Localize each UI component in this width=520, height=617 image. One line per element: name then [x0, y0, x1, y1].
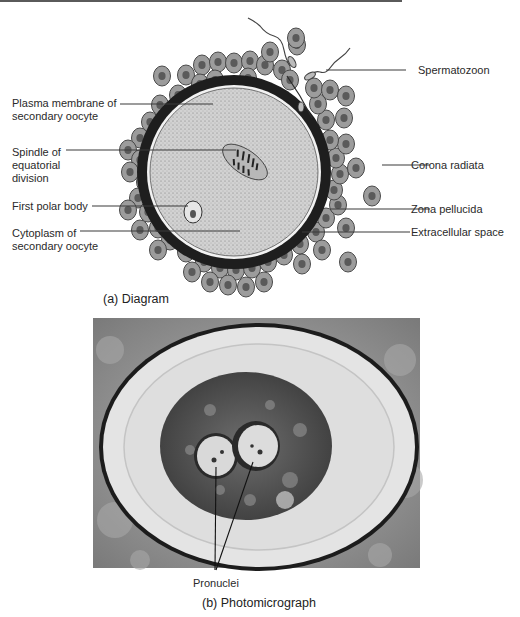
- label-plasma-membrane: Plasma membrane of secondary oocyte: [12, 97, 117, 123]
- label-cytoplasm: Cytoplasm of secondary oocyte: [12, 227, 98, 253]
- label-zona-pellucida: Zona pellucida: [411, 203, 483, 216]
- caption-panel-a: (a) Diagram: [103, 292, 169, 306]
- label-extracellular-space: Extracellular space: [411, 226, 504, 239]
- label-spermatozoon: Spermatozoon: [418, 64, 490, 77]
- label-corona-radiata: Corona radiata: [411, 159, 484, 172]
- oocyte-diagram: [0, 0, 520, 617]
- caption-panel-b: (b) Photomicrograph: [202, 596, 316, 610]
- label-pronuclei: Pronuclei: [193, 577, 239, 590]
- photomicrograph: [93, 318, 423, 571]
- label-first-polar-body: First polar body: [12, 200, 88, 213]
- label-spindle: Spindle of equatorial division: [12, 146, 61, 185]
